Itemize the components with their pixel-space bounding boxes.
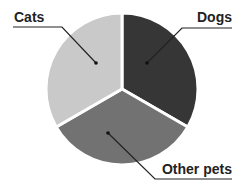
- label-other-pets: Other pets: [162, 161, 232, 177]
- leader-dot-cats: [94, 61, 98, 65]
- pie-chart: Cats Dogs Other pets: [0, 0, 245, 190]
- leader-dot-dogs: [145, 61, 149, 65]
- leader-dot-other-pets: [106, 131, 110, 135]
- pie-slices: [46, 13, 198, 165]
- label-cats: Cats: [14, 9, 45, 25]
- label-dogs: Dogs: [197, 9, 232, 25]
